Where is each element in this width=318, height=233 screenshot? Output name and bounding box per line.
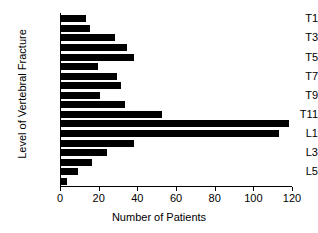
x-axis-tick-label: 40	[117, 192, 157, 204]
y-axis-tick-label: L3	[260, 147, 318, 158]
x-axis-tick-label: 80	[195, 192, 235, 204]
x-axis-tick-label: 100	[233, 192, 273, 204]
x-axis-tick	[253, 187, 254, 191]
x-axis-tick-label: 60	[156, 192, 196, 204]
x-axis-tick-label: 20	[79, 192, 119, 204]
bar	[61, 82, 121, 89]
y-axis-title-wrap: Level of Vertebral Fracture	[0, 0, 24, 200]
bar	[61, 34, 115, 41]
bar	[61, 44, 127, 51]
bar	[61, 111, 162, 118]
bar	[61, 168, 78, 175]
y-axis-tick-label: T9	[260, 90, 318, 101]
bar	[61, 130, 279, 137]
bar	[61, 159, 92, 166]
bar	[61, 178, 67, 185]
bar	[61, 140, 134, 147]
x-axis-tick	[99, 187, 100, 191]
y-axis-tick-label: T3	[260, 32, 318, 43]
bar	[61, 54, 134, 61]
bar	[61, 63, 98, 70]
bar	[61, 92, 100, 99]
x-axis-tick	[176, 187, 177, 191]
y-axis-tick-label: T7	[260, 71, 318, 82]
bar	[61, 25, 90, 32]
y-axis-tick-label: T11	[260, 109, 318, 120]
x-axis-tick	[215, 187, 216, 191]
y-axis-tick-label: L5	[260, 166, 318, 177]
bar	[61, 149, 107, 156]
x-axis-tick	[292, 187, 293, 191]
y-axis-tick-label: T5	[260, 52, 318, 63]
x-axis-tick-label: 0	[40, 192, 80, 204]
y-axis-tick-label: T1	[260, 13, 318, 24]
x-axis-title: Number of Patients	[0, 211, 318, 223]
bar	[61, 120, 289, 127]
bar-chart: Level of Vertebral Fracture 020406080100…	[0, 0, 318, 233]
bar	[61, 73, 117, 80]
x-axis-tick	[137, 187, 138, 191]
y-axis-tick-label: L1	[260, 128, 318, 139]
x-axis-tick	[60, 187, 61, 191]
bar	[61, 15, 86, 22]
x-axis-tick-label: 120	[272, 192, 312, 204]
y-axis-title: Level of Vertebral Fracture	[16, 6, 28, 182]
bar	[61, 101, 125, 108]
